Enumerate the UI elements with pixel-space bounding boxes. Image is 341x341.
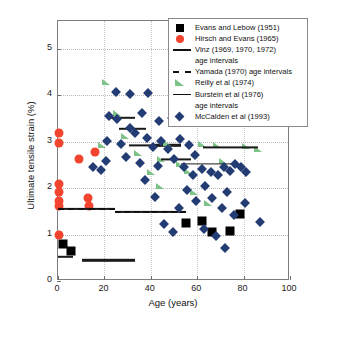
blank-key: [173, 55, 195, 66]
data-point-triangle: [134, 150, 142, 156]
legend-item-vinz: Vinz (1969, 1970, 1972): [173, 44, 303, 55]
solid-line-key-icon: [173, 44, 195, 55]
legend-label: Reilly et al (1974): [195, 77, 254, 88]
data-point-triangle: [121, 133, 129, 139]
data-point-circle: [55, 230, 64, 239]
x-axis-tick: [197, 276, 198, 280]
data-point-diamond: [144, 88, 154, 98]
data-point-circle: [55, 187, 64, 196]
data-point-diamond: [121, 152, 131, 162]
x-axis-tick-label: 100: [269, 283, 309, 293]
data-point-circle: [55, 138, 64, 147]
x-axis-title: Age (years): [57, 297, 289, 308]
legend-item-burstein: Burstein et al (1976): [173, 89, 303, 100]
x-axis-tick-label: 40: [130, 283, 170, 293]
data-point-square: [181, 218, 190, 227]
x-axis-tick: [244, 276, 245, 280]
data-point-diamond: [135, 158, 145, 168]
figure-root: Age (years) Ultimate tensile strain (%) …: [0, 0, 341, 341]
data-point-square: [197, 216, 206, 225]
data-point-triangle: [156, 183, 164, 189]
legend-label: age intervals: [195, 55, 238, 66]
data-point-diamond: [125, 89, 135, 99]
interval-segment-line: [58, 256, 73, 258]
legend-label: age intervals: [195, 100, 238, 111]
data-point-diamond: [140, 175, 150, 185]
data-point-diamond: [159, 219, 169, 229]
legend-label: Yamada (1970) age intervals: [195, 66, 292, 77]
legend-label: Vinz (1969, 1970, 1972): [195, 44, 276, 55]
legend-label: Burstein et al (1976): [195, 89, 263, 100]
data-point-diamond: [116, 139, 126, 149]
x-axis-tick-label: 60: [176, 283, 216, 293]
interval-segment-line: [82, 259, 134, 262]
diamond-key-icon: [173, 111, 195, 122]
data-point-square: [225, 226, 234, 235]
data-point-diamond: [220, 243, 230, 253]
legend-label: Evans and Lebow (1951): [195, 22, 279, 33]
data-point-diamond: [190, 150, 200, 160]
square-key-icon: [173, 22, 195, 33]
y-axis-tick: [57, 49, 61, 50]
data-point-circle: [74, 155, 83, 164]
triangle-key-icon: [173, 77, 195, 88]
data-point-diamond: [150, 192, 160, 202]
x-axis-tick: [151, 276, 152, 280]
interval-segment-thin-line: [203, 147, 258, 148]
data-point-square: [66, 246, 75, 255]
dashed-line-key-icon: [173, 66, 195, 77]
data-point-diamond: [101, 156, 111, 166]
legend-item-hirsch-evans: Hirsch and Evans (1965): [173, 33, 303, 44]
data-point-triangle: [102, 79, 110, 85]
thin-line-key-icon: [173, 89, 195, 100]
interval-segment-dashed-line: [115, 211, 186, 213]
data-point-diamond: [168, 227, 178, 237]
data-point-triangle: [147, 169, 155, 175]
y-axis-tick: [57, 95, 61, 96]
circle-key-icon: [173, 33, 195, 44]
gridline-horizontal: [58, 142, 288, 143]
x-axis-tick: [58, 276, 59, 280]
data-point-diamond: [255, 217, 265, 227]
x-axis-tick-label: 0: [37, 283, 77, 293]
blank-key: [173, 100, 195, 111]
legend-item-yamada: Yamada (1970) age intervals: [173, 66, 303, 77]
y-axis-title: Ultimate tensile strain (%): [25, 76, 36, 236]
x-axis-tick-label: 80: [223, 283, 263, 293]
data-point-diamond: [191, 196, 201, 206]
legend-label: Hirsch and Evans (1965): [195, 33, 279, 44]
chart-legend: Evans and Lebow (1951) Hirsch and Evans …: [168, 18, 308, 127]
legend-label: McCalden et al (1993): [195, 111, 270, 122]
interval-segment-dashed-line: [58, 208, 115, 210]
data-point-diamond: [200, 181, 210, 191]
x-axis-tick-label: 20: [83, 283, 123, 293]
y-axis-tick: [57, 281, 61, 282]
data-point-diamond: [137, 108, 147, 118]
data-point-diamond: [154, 116, 164, 126]
legend-item-burstein-cont: age intervals: [173, 100, 303, 111]
data-point-diamond: [217, 203, 227, 213]
data-point-circle: [55, 129, 64, 138]
x-axis-tick: [290, 276, 291, 280]
legend-item-evans-lebow: Evans and Lebow (1951): [173, 22, 303, 33]
legend-item-reilly: Reilly et al (1974): [173, 77, 303, 88]
y-axis-tick-label: 3: [36, 135, 52, 145]
data-point-diamond: [213, 170, 223, 180]
data-point-diamond: [240, 198, 250, 208]
y-axis-tick-label: 1: [36, 228, 52, 238]
data-point-circle: [91, 147, 100, 156]
data-point-diamond: [175, 134, 185, 144]
y-axis-tick-label: 2: [36, 181, 52, 191]
gridline-vertical: [104, 21, 105, 279]
y-axis-tick-label: 4: [36, 88, 52, 98]
gridline-horizontal: [58, 188, 288, 189]
y-axis-tick-label: 5: [36, 42, 52, 52]
x-axis-tick: [104, 276, 105, 280]
legend-item-mccalden: McCalden et al (1993): [173, 111, 303, 122]
legend-item-vinz-cont: age intervals: [173, 55, 303, 66]
